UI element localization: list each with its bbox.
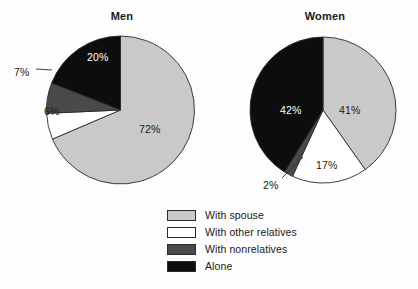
men-percent-label-nonrelatives: 7% bbox=[14, 66, 29, 78]
legend-swatch-icon bbox=[167, 261, 196, 272]
pie-chart-figure: Men Women 72%6%7%20%41%17%2%42% With spo… bbox=[0, 0, 418, 289]
legend-item-label: Alone bbox=[205, 260, 232, 272]
legend-item-label: With nonrelatives bbox=[205, 243, 287, 255]
women-percent-label-other: 17% bbox=[316, 159, 337, 171]
women-percent-label-nonrelatives: 2% bbox=[263, 179, 278, 191]
legend-item-with-nonrelatives[interactable]: With nonrelatives bbox=[167, 241, 297, 257]
legend-swatch-icon bbox=[167, 227, 196, 238]
men-percent-label-other: 6% bbox=[44, 105, 59, 117]
legend-item-label: With other relatives bbox=[205, 226, 297, 238]
legend-item-with-other-relatives[interactable]: With other relatives bbox=[167, 224, 297, 240]
leader-line-men-nonrelatives bbox=[36, 69, 52, 70]
women-percent-label-spouse: 41% bbox=[339, 104, 360, 116]
legend-item-alone[interactable]: Alone bbox=[167, 258, 297, 274]
chart-legend: With spouseWith other relativesWith nonr… bbox=[167, 207, 297, 275]
legend-swatch-icon bbox=[167, 244, 196, 255]
men-percent-label-alone: 20% bbox=[87, 51, 108, 63]
legend-item-label: With spouse bbox=[205, 209, 264, 221]
men-percent-label-spouse: 72% bbox=[139, 123, 160, 135]
legend-item-with-spouse[interactable]: With spouse bbox=[167, 207, 297, 223]
women-percent-label-alone: 42% bbox=[280, 104, 301, 116]
legend-swatch-icon bbox=[167, 210, 196, 221]
